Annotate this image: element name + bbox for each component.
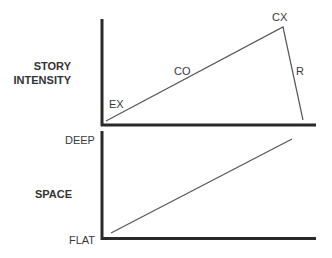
- label-ex: EX: [109, 98, 124, 111]
- story-title-line1: STORY: [34, 59, 71, 73]
- label-co: CO: [174, 65, 191, 78]
- space-line: [111, 139, 292, 233]
- label-flat: FLAT: [69, 234, 95, 247]
- diagram-canvas: [0, 0, 332, 258]
- story-title-line2: INTENSITY: [14, 73, 71, 87]
- label-deep: DEEP: [65, 134, 95, 147]
- space-title: SPACE: [35, 187, 72, 201]
- story-intensity-line: [106, 27, 303, 121]
- label-r: R: [296, 65, 304, 78]
- label-cx: CX: [272, 11, 287, 24]
